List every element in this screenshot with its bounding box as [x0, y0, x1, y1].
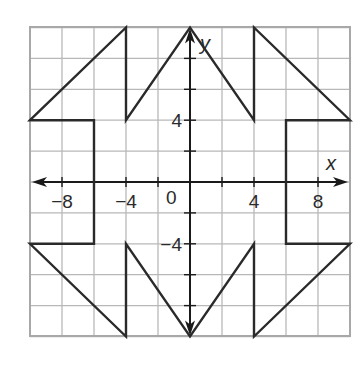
y-tick-label: 4: [171, 110, 182, 131]
y-tick-label: −4: [160, 234, 182, 255]
x-tick-label: 8: [313, 191, 324, 212]
y-axis-label: y: [198, 32, 211, 54]
x-tick-label: −8: [51, 191, 73, 212]
x-tick-label: 4: [249, 191, 260, 212]
x-tick-label: −4: [115, 191, 137, 212]
origin-label: 0: [166, 187, 177, 208]
coordinate-plane: −8−4484−4 x y 0: [0, 0, 361, 365]
x-axis-label: x: [325, 152, 337, 174]
axes: [32, 29, 348, 336]
